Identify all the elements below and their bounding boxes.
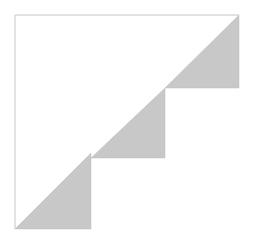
step-triangle-3 (165, 15, 239, 88)
step-triangle-2 (91, 88, 165, 158)
staircase-diagram (0, 0, 256, 242)
step-triangle-1 (15, 153, 91, 229)
